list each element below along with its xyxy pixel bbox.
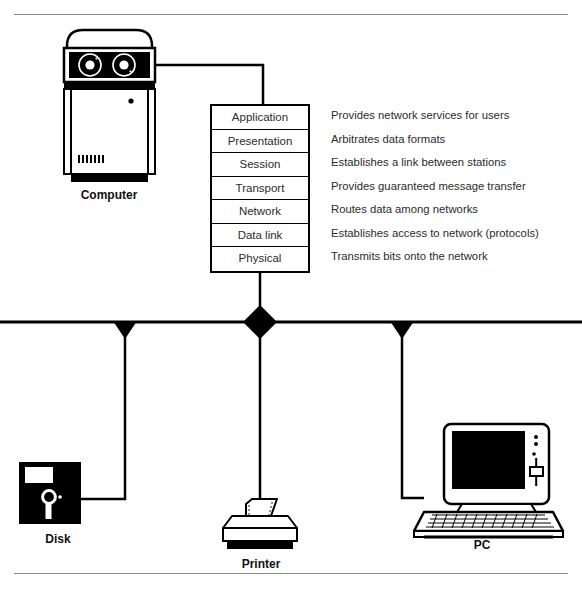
page-rule-bottom	[14, 573, 568, 574]
osi-layer-data-link: Data link	[212, 224, 308, 248]
disk-icon	[19, 462, 81, 524]
osi-description-session: Establishes a link between stations	[331, 151, 576, 175]
bus-tap-printer	[243, 305, 277, 339]
computer-link	[155, 65, 263, 104]
osi-layer-application: Application	[212, 106, 308, 130]
bus-tap-pc	[390, 321, 414, 339]
osi-layer-physical: Physical	[212, 247, 308, 271]
pc-icon	[414, 424, 563, 537]
pc-label: PC	[420, 538, 544, 552]
osi-layer-descriptions: Provides network services for users Arbi…	[331, 104, 576, 269]
osi-description-transport: Provides guaranteed message transfer	[331, 175, 576, 199]
disk-drop-line	[62, 335, 125, 499]
osi-layer-stack: Application Presentation Session Transpo…	[210, 104, 310, 273]
osi-description-presentation: Arbitrates data formats	[331, 128, 576, 152]
computer-label: Computer	[57, 188, 161, 202]
printer-icon	[223, 499, 297, 549]
osi-description-data-link: Establishes access to network (protocols…	[331, 222, 576, 246]
computer-icon	[64, 30, 155, 182]
osi-description-application: Provides network services for users	[331, 104, 576, 128]
osi-layer-transport: Transport	[212, 177, 308, 201]
diagram-canvas: Application Presentation Session Transpo…	[0, 0, 582, 589]
osi-layer-presentation: Presentation	[212, 130, 308, 154]
pc-drop-line	[402, 335, 424, 498]
osi-description-network: Routes data among networks	[331, 198, 576, 222]
osi-layer-session: Session	[212, 153, 308, 177]
disk-label: Disk	[14, 532, 102, 546]
diagram-artwork	[0, 0, 582, 589]
printer-label: Printer	[205, 557, 317, 571]
page-rule-top	[14, 14, 568, 15]
osi-layer-network: Network	[212, 200, 308, 224]
osi-description-physical: Transmits bits onto the network	[331, 245, 576, 269]
bus-tap-disk	[113, 321, 137, 339]
